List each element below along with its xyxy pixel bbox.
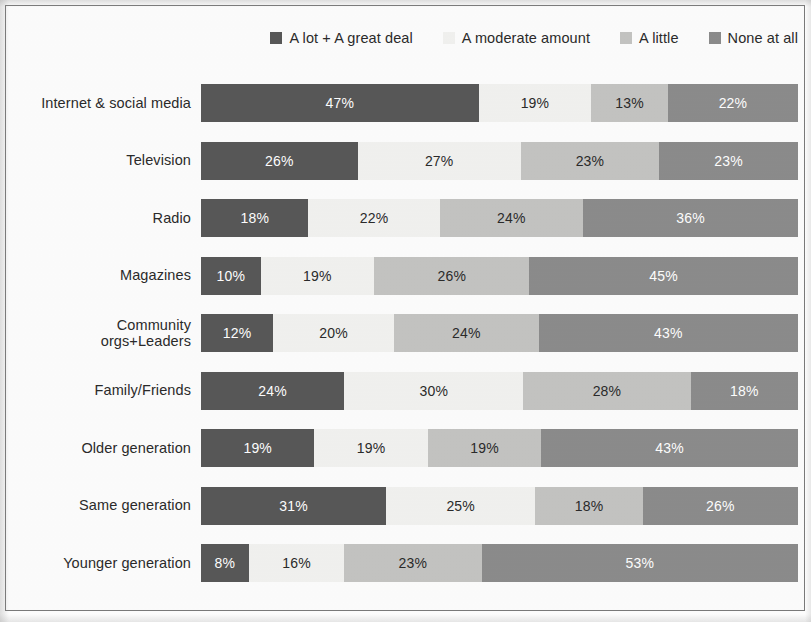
bar-segment: 24% — [201, 372, 344, 410]
bar-segment: 45% — [529, 257, 798, 295]
legend-item-a-moderate-amount: A moderate amount — [443, 30, 590, 46]
bar-segment: 24% — [394, 314, 539, 352]
bar-segment: 20% — [273, 314, 394, 352]
bar-row: Family/Friends24%30%28%18% — [6, 372, 806, 410]
bar-segment: 22% — [668, 84, 798, 122]
bar-track: 19%19%19%43% — [201, 429, 798, 467]
bar-segment: 16% — [249, 544, 345, 582]
bar-segment: 47% — [201, 84, 479, 122]
legend-label: A little — [639, 30, 679, 46]
bar-segment: 18% — [535, 487, 642, 525]
legend-item-a-lot-a-great-deal: A lot + A great deal — [270, 30, 412, 46]
legend-label: A moderate amount — [462, 30, 590, 46]
bar-segment: 53% — [482, 544, 798, 582]
bar-track: 18%22%24%36% — [201, 199, 798, 237]
bar-segment: 8% — [201, 544, 249, 582]
category-label: Magazines — [6, 267, 201, 283]
bar-segment: 25% — [386, 487, 535, 525]
bar-row: Magazines10%19%26%45% — [6, 257, 806, 295]
bar-segment: 26% — [643, 487, 798, 525]
bar-row: Younger generation8%16%23%53% — [6, 544, 806, 582]
category-label: Family/Friends — [6, 382, 201, 398]
bar-track: 10%19%26%45% — [201, 257, 798, 295]
bar-segment: 26% — [201, 142, 358, 180]
legend-item-a-little: A little — [620, 30, 679, 46]
legend-swatch-icon — [270, 32, 282, 44]
bar-row: Radio18%22%24%36% — [6, 199, 806, 237]
bar-segment: 23% — [344, 544, 481, 582]
bar-track: 8%16%23%53% — [201, 544, 798, 582]
bar-row: Communityorgs+Leaders12%20%24%43% — [6, 314, 806, 352]
bar-segment: 19% — [201, 429, 314, 467]
bar-segment: 19% — [428, 429, 541, 467]
legend-item-none-at-all: None at all — [709, 30, 798, 46]
category-label: Internet & social media — [6, 95, 201, 111]
bar-segment: 23% — [521, 142, 660, 180]
legend-swatch-icon — [709, 32, 721, 44]
bar-segment: 10% — [201, 257, 261, 295]
bar-segment: 36% — [583, 199, 798, 237]
legend-label: None at all — [728, 30, 798, 46]
bar-segment: 19% — [314, 429, 427, 467]
category-label: Television — [6, 152, 201, 168]
bar-segment: 19% — [479, 84, 591, 122]
bar-row: Same generation31%25%18%26% — [6, 487, 806, 525]
legend-swatch-icon — [620, 32, 632, 44]
category-label: Communityorgs+Leaders — [6, 317, 201, 349]
bar-segment: 27% — [358, 142, 521, 180]
category-label: Older generation — [6, 440, 201, 456]
bar-segment: 43% — [541, 429, 798, 467]
bar-segment: 26% — [374, 257, 529, 295]
bar-track: 47%19%13%22% — [201, 84, 798, 122]
bar-segment: 28% — [523, 372, 690, 410]
category-label: Younger generation — [6, 555, 201, 571]
stacked-bar-plot-area: Internet & social media47%19%13%22%Telev… — [6, 84, 806, 604]
category-label: Same generation — [6, 497, 201, 513]
chart-legend: A lot + A great deal A moderate amount A… — [6, 30, 806, 46]
category-label: Radio — [6, 210, 201, 226]
bar-segment: 31% — [201, 487, 386, 525]
bar-track: 31%25%18%26% — [201, 487, 798, 525]
legend-swatch-icon — [443, 32, 455, 44]
bar-segment: 13% — [591, 84, 668, 122]
bar-segment: 12% — [201, 314, 273, 352]
bar-segment: 30% — [344, 372, 523, 410]
bar-segment: 18% — [691, 372, 798, 410]
bar-segment: 19% — [261, 257, 374, 295]
bar-segment: 18% — [201, 199, 308, 237]
legend-label: A lot + A great deal — [289, 30, 412, 46]
bar-track: 26%27%23%23% — [201, 142, 798, 180]
bar-segment: 43% — [539, 314, 798, 352]
bar-track: 24%30%28%18% — [201, 372, 798, 410]
bar-row: Older generation19%19%19%43% — [6, 429, 806, 467]
bar-segment: 22% — [308, 199, 439, 237]
bar-row: Television26%27%23%23% — [6, 142, 806, 180]
bar-segment: 24% — [440, 199, 583, 237]
bar-row: Internet & social media47%19%13%22% — [6, 84, 806, 122]
bar-segment: 23% — [659, 142, 798, 180]
bar-track: 12%20%24%43% — [201, 314, 798, 352]
chart-frame: A lot + A great deal A moderate amount A… — [5, 5, 805, 611]
